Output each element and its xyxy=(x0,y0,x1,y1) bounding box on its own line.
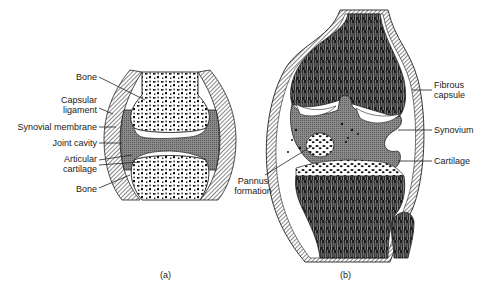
label-pannus-formation-line2: formation xyxy=(228,186,278,196)
label-fibrous-capsule-line1: Fibrous xyxy=(434,80,464,90)
label-capsular-ligament-line1: Capsular xyxy=(40,95,97,105)
label-bone-top: Bone xyxy=(40,72,97,82)
panel-a-drawing xyxy=(99,70,236,200)
label-articular-cartilage-line2: cartilage xyxy=(40,164,97,174)
label-capsular-ligament-line2: ligament xyxy=(40,105,97,115)
panel-tag-b: (b) xyxy=(340,270,351,280)
label-synovium: Synovium xyxy=(434,125,474,135)
panel-b-drawing xyxy=(265,10,432,262)
label-cartilage: Cartilage xyxy=(434,156,470,166)
panel-tag-a: (a) xyxy=(160,270,171,280)
label-synovial-membrane: Synovial membrane xyxy=(0,122,97,132)
joint-diagram: Bone Capsular ligament Synovial membrane… xyxy=(0,0,486,290)
label-pannus-formation-line1: Pannus xyxy=(228,176,278,186)
label-joint-cavity: Joint cavity xyxy=(20,138,97,148)
label-bone-bottom: Bone xyxy=(40,184,97,194)
label-fibrous-capsule-line2: capsule xyxy=(434,90,465,100)
label-articular-cartilage-line1: Articular xyxy=(40,154,97,164)
